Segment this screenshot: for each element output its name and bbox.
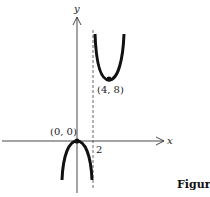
min-point-label: (4, 8) xyxy=(97,85,124,95)
y-axis-label: y xyxy=(74,4,80,14)
right-branch-curve xyxy=(95,34,124,80)
asymptote-tick-label: 2 xyxy=(96,145,102,155)
origin-point-marker xyxy=(74,138,79,143)
origin-point-label: (0, 0) xyxy=(50,127,77,137)
x-axis-label: x xyxy=(167,136,173,146)
graph-canvas xyxy=(0,0,210,197)
figure-caption: Figure xyxy=(177,178,210,191)
min-point-marker xyxy=(106,76,111,81)
